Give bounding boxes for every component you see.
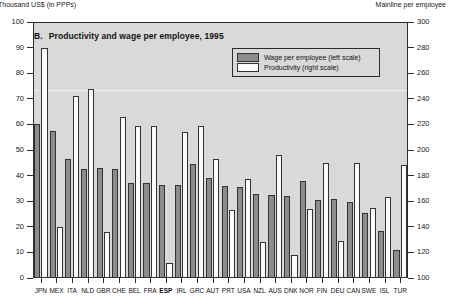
left-axis-tick-label: 0 (0, 274, 24, 282)
category-label-aut: AUT (206, 288, 219, 295)
left-axis-tick-label: 30 (0, 197, 24, 205)
left-axis-tick (27, 150, 33, 151)
bar-productivity-aus (276, 155, 282, 278)
category-label-dnk: DNK (284, 288, 298, 295)
chart-title-text: Productivity and wage per employee, 1995 (49, 31, 224, 41)
category-label-mex: MEX (49, 288, 63, 295)
bar-productivity-irl (182, 132, 188, 278)
chart-legend: Wage per employee (left scale) Productiv… (232, 48, 380, 77)
bar-productivity-nld (88, 89, 94, 278)
category-label-esp: ESP (159, 288, 172, 295)
left-axis-tick (27, 278, 33, 279)
right-axis-tick (408, 226, 414, 227)
bar-productivity-bel (135, 126, 141, 278)
bar-wage-grc (190, 164, 196, 278)
category-label-ita: ITA (67, 288, 77, 295)
bar-productivity-mex (57, 227, 63, 278)
category-tick (275, 278, 276, 283)
category-label-prt: PRT (222, 288, 235, 295)
category-tick (338, 278, 339, 283)
bar-wage-dnk (284, 196, 290, 278)
bar-productivity-usa (245, 179, 251, 278)
category-tick (322, 278, 323, 283)
bar-productivity-jpn (41, 48, 47, 278)
bar-productivity-fin (323, 163, 329, 278)
category-label-can: CAN (346, 288, 360, 295)
left-axis-caption: Thousand US$ (in PPPs) (0, 1, 76, 8)
bar-wage-can (347, 202, 353, 278)
bar-productivity-nor (307, 209, 313, 278)
category-label-che: CHE (112, 288, 126, 295)
category-tick (181, 278, 182, 283)
bar-productivity-isl (385, 197, 391, 278)
category-label-bel: BEL (128, 288, 140, 295)
bar-productivity-gbr (104, 232, 110, 278)
bar-productivity-swe (370, 208, 376, 278)
left-axis-tick (27, 98, 33, 99)
category-label-jpn: JPN (35, 288, 47, 295)
category-tick (369, 278, 370, 283)
category-label-fra: FRA (144, 288, 157, 295)
right-axis-tick-label: 180 (417, 172, 430, 180)
bar-wage-bel (128, 183, 134, 278)
left-axis-tick (27, 22, 33, 23)
right-axis-tick-label: 100 (417, 274, 430, 282)
left-axis-tick-label: 60 (0, 120, 24, 128)
bar-wage-fra (143, 183, 149, 278)
bar-wage-fin (315, 200, 321, 278)
category-axis-labels: JPNMEXITANLDGBRCHEBELFRAESPIRLGRCAUTPRTU… (33, 288, 408, 300)
category-tick (135, 278, 136, 283)
left-axis-tick-label: 10 (0, 248, 24, 256)
bar-productivity-can (354, 163, 360, 278)
left-axis-tick-label: 50 (0, 146, 24, 154)
right-axis-tick-label: 280 (417, 44, 430, 52)
bar-productivity-aut (213, 159, 219, 278)
bar-wage-swe (362, 213, 368, 278)
right-axis-tick-label: 200 (417, 146, 430, 154)
category-tick (72, 278, 73, 283)
bar-productivity-ita (73, 96, 79, 278)
bar-productivity-che (120, 117, 126, 278)
bar-wage-jpn (34, 124, 40, 278)
bar-productivity-deu (338, 241, 344, 278)
category-tick (88, 278, 89, 283)
left-axis-tick (27, 73, 33, 74)
category-label-swe: SWE (362, 288, 377, 295)
left-axis-tick (27, 175, 33, 176)
right-axis-tick-label: 140 (417, 223, 430, 231)
category-label-nld: NLD (81, 288, 94, 295)
category-label-grc: GRC (190, 288, 204, 295)
left-axis-tick (27, 124, 33, 125)
bar-wage-mex (50, 131, 56, 278)
right-axis-tick-label: 300 (417, 18, 430, 26)
category-label-deu: DEU (331, 288, 345, 295)
bar-wage-aus (268, 195, 274, 278)
left-axis-tick (27, 47, 33, 48)
right-axis-tick (408, 73, 414, 74)
category-label-irl: IRL (176, 288, 186, 295)
left-axis-tick-label: 20 (0, 223, 24, 231)
left-axis-tick-label: 70 (0, 95, 24, 103)
right-axis-tick (408, 252, 414, 253)
category-tick (400, 278, 401, 283)
right-axis-tick-label: 260 (417, 69, 430, 77)
bar-wage-esp (159, 185, 165, 278)
right-axis-tick (408, 175, 414, 176)
category-tick (166, 278, 167, 283)
category-label-nzl: NZL (253, 288, 265, 295)
right-axis-tick (408, 201, 414, 202)
bar-wage-isl (378, 231, 384, 278)
category-label-gbr: GBR (96, 288, 110, 295)
bar-productivity-esp (166, 263, 172, 278)
category-tick (353, 278, 354, 283)
bar-wage-deu (331, 199, 337, 278)
chart-title: B.Productivity and wage per employee, 19… (34, 31, 224, 41)
right-axis-tick (408, 150, 414, 151)
left-axis-tick-label: 80 (0, 69, 24, 77)
right-axis-tick (408, 47, 414, 48)
category-tick (385, 278, 386, 283)
category-label-usa: USA (237, 288, 250, 295)
bar-wage-nzl (253, 194, 259, 278)
category-tick (228, 278, 229, 283)
chart-figure: Thousand US$ (in PPPs) Mainline per empl… (0, 0, 449, 301)
